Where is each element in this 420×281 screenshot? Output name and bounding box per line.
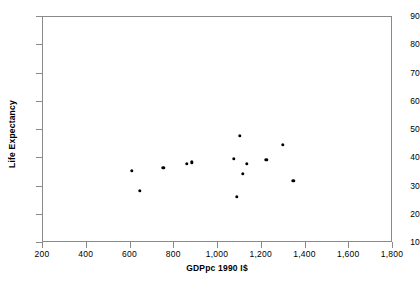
x-tick-label: 1,200 <box>241 250 281 259</box>
data-point <box>190 161 193 164</box>
x-axis-title: GDPpc 1990 I$ <box>42 263 392 273</box>
chart-screenshot: 102030405060708090 2004006008001,0001,20… <box>0 0 420 281</box>
y-tick-label: 90 <box>394 12 420 21</box>
data-point <box>138 189 141 192</box>
x-tick-label: 1,000 <box>197 250 237 259</box>
x-tick-mark <box>261 242 262 248</box>
x-tick-label: 1,600 <box>328 250 368 259</box>
x-tick-mark <box>130 242 131 248</box>
x-tick-mark <box>42 242 43 248</box>
x-tick-mark <box>392 242 393 248</box>
x-tick-mark <box>305 242 306 248</box>
x-tick-mark <box>217 242 218 248</box>
y-tick-label: 70 <box>394 68 420 77</box>
x-tick-label: 200 <box>22 250 62 259</box>
y-axis-title: Life Expectancy <box>7 89 17 179</box>
x-tick-label: 1,800 <box>372 250 412 259</box>
data-point <box>235 195 238 198</box>
data-point <box>241 172 244 175</box>
data-point <box>162 166 165 169</box>
data-point <box>130 169 133 172</box>
x-tick-label: 400 <box>66 250 106 259</box>
data-point <box>245 162 248 165</box>
data-point <box>232 157 235 160</box>
y-tick-label: 40 <box>394 153 420 162</box>
data-point <box>291 179 294 182</box>
data-point <box>238 134 241 137</box>
data-point <box>265 158 268 161</box>
plot-area <box>42 16 392 242</box>
x-tick-mark <box>86 242 87 248</box>
y-tick-label: 10 <box>394 238 420 247</box>
y-tick-label: 20 <box>394 210 420 219</box>
data-point <box>185 162 188 165</box>
y-tick-label: 80 <box>394 40 420 49</box>
x-tick-label: 1,400 <box>285 250 325 259</box>
y-tick-label: 50 <box>394 125 420 134</box>
x-tick-mark <box>173 242 174 248</box>
x-tick-label: 800 <box>153 250 193 259</box>
y-tick-label: 30 <box>394 181 420 190</box>
y-tick-label: 60 <box>394 97 420 106</box>
x-tick-label: 600 <box>110 250 150 259</box>
x-tick-mark <box>348 242 349 248</box>
data-point <box>281 143 284 146</box>
